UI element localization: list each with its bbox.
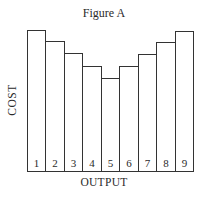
x-tick-label: 6 — [120, 157, 138, 169]
x-tick-label: 7 — [139, 157, 156, 169]
x-axis-line — [27, 171, 193, 172]
bar-6: 6 — [119, 66, 139, 172]
x-tick-label: 3 — [65, 157, 82, 169]
x-tick-label: 5 — [102, 157, 119, 169]
bar-9: 9 — [175, 31, 194, 172]
x-tick-label: 8 — [157, 157, 175, 169]
x-tick-label: 4 — [83, 157, 101, 169]
x-tick-label: 1 — [28, 157, 45, 169]
y-axis-label: COST — [6, 80, 20, 120]
bar-4: 4 — [82, 66, 102, 172]
x-axis-label: OUTPUT — [0, 176, 208, 188]
bar-2: 2 — [45, 41, 65, 172]
bar-8: 8 — [156, 42, 176, 172]
bar-3: 3 — [64, 53, 83, 172]
bar-7: 7 — [138, 54, 157, 172]
x-tick-label: 9 — [176, 157, 193, 169]
chart-title: Figure A — [0, 6, 208, 21]
x-tick-label: 2 — [46, 157, 64, 169]
bar-1: 1 — [27, 30, 46, 172]
bar-5: 5 — [101, 78, 120, 172]
plot-area: 123456789 — [27, 20, 193, 172]
